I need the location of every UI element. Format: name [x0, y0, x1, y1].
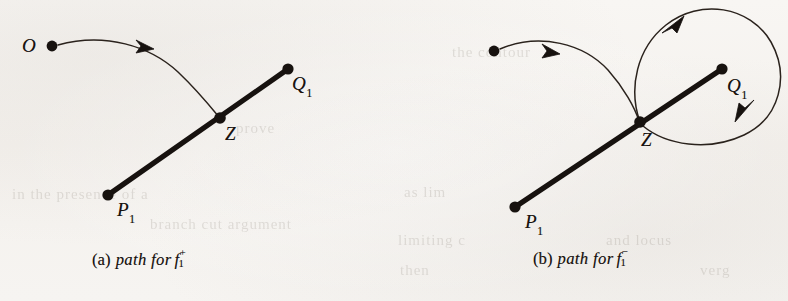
caption-b-superscript: − — [621, 246, 627, 257]
caption-b-text: path for — [558, 249, 614, 268]
caption-a-superscript: + — [180, 247, 186, 258]
point-p1 — [509, 201, 520, 212]
label-p1: P1 — [117, 200, 135, 223]
path-curve-o-to-z — [500, 41, 639, 121]
loop-arrow-up-icon — [662, 16, 684, 33]
point-p1 — [102, 189, 113, 200]
point-q1 — [716, 63, 727, 74]
caption-b-tag: (b) — [533, 249, 553, 268]
caption-b: (b)path forf−1 — [533, 251, 621, 268]
panel-a: O Q1 Z P1 (a)path forf+1 — [0, 0, 394, 301]
caption-b-symbol: f−1 — [616, 251, 621, 268]
path-arrow-icon — [542, 44, 560, 58]
point-o — [489, 46, 500, 57]
caption-a: (a)path forf+1 — [92, 252, 179, 269]
caption-a-symbol: f+1 — [175, 252, 180, 269]
panel-b: Q1 Z P1 (b)path forf−1 — [394, 0, 788, 301]
label-z: Z — [225, 124, 236, 143]
caption-b-subscript: 1 — [620, 258, 625, 269]
label-q1: Q1 — [292, 74, 312, 97]
segment-p1-q1 — [515, 69, 722, 207]
path-arrow-icon — [136, 40, 154, 53]
panel-a-drawing — [0, 0, 394, 301]
label-p1: P1 — [525, 212, 543, 235]
loop-arrow-down-icon — [735, 100, 754, 122]
caption-a-subscript: 1 — [179, 259, 184, 270]
label-q1: Q1 — [727, 76, 747, 99]
point-o — [47, 41, 58, 52]
caption-a-tag: (a) — [92, 250, 111, 269]
label-o: O — [22, 36, 36, 55]
segment-p1-q1 — [108, 69, 288, 195]
point-z — [634, 116, 646, 128]
figure-container: in the presence of a branch cut argument… — [0, 0, 788, 301]
caption-a-text: path for — [116, 250, 172, 269]
label-z: Z — [641, 130, 652, 149]
